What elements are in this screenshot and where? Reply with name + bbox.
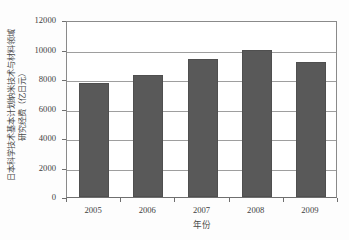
x-tick-label: 2007 xyxy=(175,205,229,215)
x-tick-mark xyxy=(174,198,175,202)
x-tick-label: 2005 xyxy=(66,205,120,215)
bar-chart-figure: 日本科学技术基本计划纳米技术与材料领域 研究经费（亿日元） 0200040006… xyxy=(0,0,349,240)
y-tick-label-text: 12000 xyxy=(35,16,56,25)
bar xyxy=(133,75,163,197)
plot-area xyxy=(66,21,337,198)
y-tick-label-text: 6000 xyxy=(39,105,56,114)
y-tick-label-text: 2000 xyxy=(39,164,56,173)
x-axis-title: 年份 xyxy=(66,220,337,231)
x-tick-label: 2006 xyxy=(120,205,174,215)
x-tick-label: 2008 xyxy=(229,205,283,215)
gridline xyxy=(67,52,336,53)
bar xyxy=(79,83,109,197)
y-tick-label-text: 0 xyxy=(52,193,56,202)
x-tick-label: 2009 xyxy=(283,205,337,215)
y-axis-title-line-2: 研究经费（亿日元） xyxy=(17,3,28,208)
bar xyxy=(188,59,218,197)
y-axis-title: 日本科学技术基本计划纳米技术与材料领域 研究经费（亿日元） xyxy=(0,0,34,210)
x-tick-mark xyxy=(337,198,338,202)
bar xyxy=(296,62,326,197)
y-axis-title-line-1: 日本科学技术基本计划纳米技术与材料领域 xyxy=(7,3,18,208)
x-tick-mark xyxy=(120,198,121,202)
y-tick-label-text: 4000 xyxy=(39,134,56,143)
x-tick-mark xyxy=(66,198,67,202)
bar xyxy=(242,50,272,197)
x-tick-mark xyxy=(283,198,284,202)
y-tick-label-text: 8000 xyxy=(39,75,56,84)
x-tick-mark xyxy=(229,198,230,202)
y-tick-label-text: 10000 xyxy=(35,46,56,55)
